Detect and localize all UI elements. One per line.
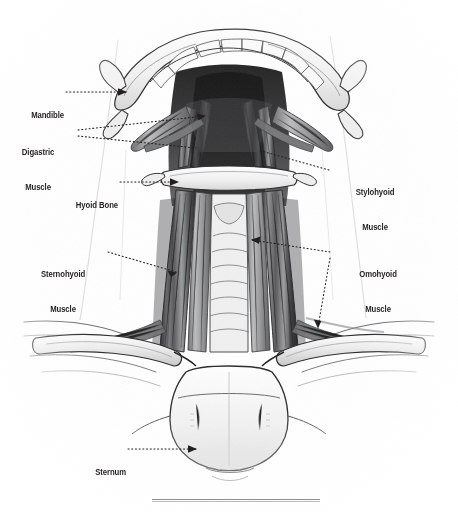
label-omohyoid-line1: Omohyoid bbox=[342, 269, 414, 281]
label-sternum-line1: Sternum bbox=[69, 467, 126, 479]
label-omohyoid-muscle: Omohyoid Muscle bbox=[342, 246, 414, 338]
label-sternohyoid-line2: Muscle bbox=[26, 304, 100, 316]
label-stylohyoid-muscle: Stylohyoid Muscle bbox=[339, 164, 411, 256]
footer-rule bbox=[152, 499, 320, 502]
label-hyoid-bone: Hyoid Bone bbox=[51, 177, 118, 235]
label-stylohyoid-line1: Stylohyoid bbox=[339, 187, 411, 199]
footer-rule-line-top bbox=[152, 499, 320, 500]
label-sternohyoid-line1: Sternohyoid bbox=[26, 269, 100, 281]
label-digastric-line1: Digastric bbox=[5, 147, 70, 159]
label-sternohyoid-muscle: Sternohyoid Muscle bbox=[26, 246, 100, 338]
footer-rule-line-bottom bbox=[152, 501, 320, 502]
label-stylohyoid-line2: Muscle bbox=[339, 222, 411, 234]
label-omohyoid-line2: Muscle bbox=[342, 304, 414, 316]
anatomy-figure-page: Mandible Digastric Muscle Hyoid Bone Ste… bbox=[0, 0, 458, 512]
label-hyoid-bone-line1: Hyoid Bone bbox=[51, 200, 118, 212]
label-sternum: Sternum bbox=[69, 444, 126, 502]
label-mandible-line1: Mandible bbox=[9, 110, 64, 122]
